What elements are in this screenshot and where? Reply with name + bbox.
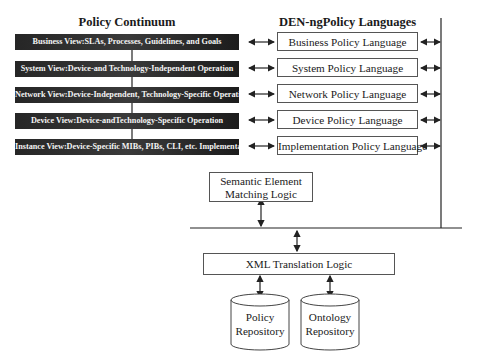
semantic-line2: Matching Logic bbox=[210, 188, 312, 201]
xml-translation-logic-box: XML Translation Logic bbox=[203, 253, 395, 275]
policy-repository: Policy Repository bbox=[230, 293, 290, 351]
semantic-line1: Semantic Element bbox=[210, 175, 312, 188]
ontology-repository-line1: Ontology bbox=[300, 310, 360, 324]
semantic-element-matching-logic-box: Semantic Element Matching Logic bbox=[209, 172, 313, 202]
policy-repository-line2: Repository bbox=[230, 324, 290, 338]
policy-repository-line1: Policy bbox=[230, 310, 290, 324]
ontology-repository-line2: Repository bbox=[300, 324, 360, 338]
ontology-repository: Ontology Repository bbox=[300, 293, 360, 351]
